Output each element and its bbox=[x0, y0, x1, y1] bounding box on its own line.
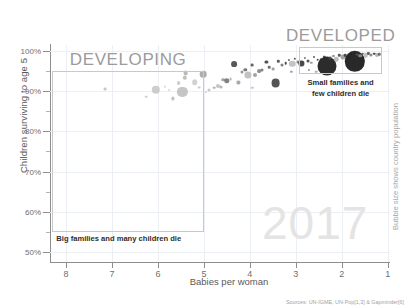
x-tick-label: 6 bbox=[155, 269, 160, 279]
region-caption-developing: Big families and many children die bbox=[56, 234, 181, 244]
y-tick-label: 90% bbox=[25, 87, 41, 96]
region-title-developing: DEVELOPING bbox=[70, 50, 187, 70]
x-tick-label: 1 bbox=[385, 269, 390, 279]
x-axis-title: Babies per woman bbox=[50, 276, 408, 287]
bubble-point bbox=[277, 60, 279, 62]
bubble-point bbox=[281, 63, 284, 66]
x-tick-label: 5 bbox=[201, 269, 206, 279]
bubble-size-legend-label: Bubble size shows country population bbox=[391, 82, 400, 252]
x-tick bbox=[112, 262, 113, 268]
y-tick-minor bbox=[46, 232, 50, 233]
bubble-point bbox=[290, 70, 292, 72]
x-tick-label: 3 bbox=[293, 269, 298, 279]
x-tick bbox=[66, 262, 67, 268]
x-tick-label: 8 bbox=[64, 269, 69, 279]
x-tick bbox=[388, 262, 389, 268]
region-caption-developed: Small families andfew children die bbox=[307, 78, 373, 99]
x-tick bbox=[250, 262, 251, 268]
bubble-point bbox=[271, 78, 280, 87]
y-tick-major bbox=[43, 252, 50, 253]
y-tick-label: 100% bbox=[21, 47, 41, 56]
bubble-point bbox=[289, 61, 295, 67]
y-tick-minor bbox=[46, 192, 50, 193]
y-tick-major bbox=[43, 212, 50, 213]
x-tick bbox=[158, 262, 159, 268]
region-title-developed: DEVELOPED bbox=[286, 26, 395, 46]
chart-root: Children surviving to age 5 Babies per w… bbox=[0, 0, 408, 308]
y-tick-label: 80% bbox=[25, 127, 41, 136]
bubble-point bbox=[207, 88, 210, 91]
gridline-horizontal bbox=[50, 252, 390, 253]
region-box-developing bbox=[52, 71, 204, 232]
bubble-point bbox=[240, 71, 243, 74]
x-tick bbox=[296, 262, 297, 268]
bubble-point bbox=[220, 86, 223, 89]
y-tick-label: 60% bbox=[25, 207, 41, 216]
y-tick-major bbox=[43, 172, 50, 173]
x-axis-line bbox=[50, 262, 390, 263]
bubble-point bbox=[251, 87, 253, 89]
x-tick-label: 7 bbox=[110, 269, 115, 279]
y-tick-major bbox=[43, 91, 50, 92]
gridline-vertical bbox=[204, 45, 205, 262]
y-tick-minor bbox=[46, 111, 50, 112]
bubble-point bbox=[237, 81, 240, 84]
gridline-vertical bbox=[388, 45, 389, 262]
bubble-point bbox=[229, 77, 232, 80]
x-tick-label: 2 bbox=[339, 269, 344, 279]
bubble-point bbox=[268, 66, 271, 69]
x-tick bbox=[204, 262, 205, 268]
x-tick bbox=[342, 262, 343, 268]
bubble-point bbox=[205, 91, 207, 93]
bubble-point bbox=[265, 61, 268, 64]
bubble-point bbox=[260, 68, 263, 71]
bubble-point bbox=[231, 61, 237, 67]
region-box-developed bbox=[299, 47, 382, 74]
bubble-point bbox=[284, 62, 287, 65]
source-attribution: Sources: UN-IGME, UN-Pop[1,3] & Gapminde… bbox=[286, 299, 404, 305]
bubble-point bbox=[213, 86, 216, 89]
y-tick-major bbox=[43, 131, 50, 132]
y-tick-major bbox=[43, 51, 50, 52]
bubble-point bbox=[251, 64, 254, 67]
year-watermark: 2017 bbox=[262, 196, 368, 250]
y-tick-label: 70% bbox=[25, 167, 41, 176]
bubble-point bbox=[253, 73, 257, 77]
y-tick-label: 50% bbox=[25, 247, 41, 256]
bubble-point bbox=[271, 67, 274, 70]
y-tick-minor bbox=[46, 71, 50, 72]
y-tick-minor bbox=[46, 151, 50, 152]
x-tick-label: 4 bbox=[247, 269, 252, 279]
